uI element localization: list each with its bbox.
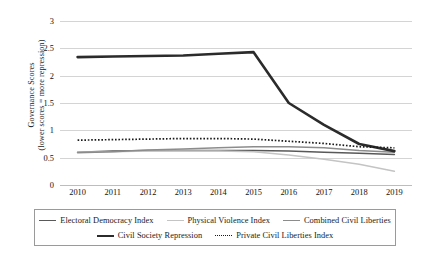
x-tick-label: 2015 bbox=[245, 188, 262, 197]
legend-row-2: Civil Society RepressionPrivate Civil Li… bbox=[35, 228, 395, 243]
x-tick-label: 2011 bbox=[105, 188, 121, 197]
series-line bbox=[78, 139, 395, 148]
x-axis-ticks: 2010201120122013201420152016201720182019 bbox=[60, 188, 412, 202]
legend-item[interactable]: Combined Civil Liberties bbox=[283, 216, 391, 225]
legend-swatch-icon bbox=[39, 220, 56, 221]
x-tick-label: 2013 bbox=[175, 188, 192, 197]
y-tick-label: 2 bbox=[14, 71, 54, 80]
legend-row-1: Electoral Democracy IndexPhysical Violen… bbox=[35, 213, 395, 228]
series-line bbox=[78, 52, 395, 151]
x-tick-label: 2017 bbox=[316, 188, 333, 197]
legend-label: Combined Civil Liberties bbox=[304, 216, 391, 225]
y-tick-label: 0.5 bbox=[14, 153, 54, 162]
legend-label: Physical Violence Index bbox=[188, 216, 270, 225]
series-lines bbox=[60, 21, 412, 185]
x-tick-label: 2014 bbox=[210, 188, 227, 197]
y-axis-ticks: 00.511.522.53 bbox=[0, 21, 54, 185]
y-tick-label: 2.5 bbox=[14, 44, 54, 53]
y-tick-label: 1 bbox=[14, 126, 54, 135]
y-tick-label: 1.5 bbox=[14, 99, 54, 108]
legend-label: Electoral Democracy Index bbox=[60, 216, 153, 225]
legend-label: Private Civil Liberties Index bbox=[236, 231, 333, 240]
legend-swatch-icon bbox=[283, 220, 300, 221]
chart-legend: Electoral Democracy IndexPhysical Violen… bbox=[34, 209, 396, 246]
legend-label: Civil Society Repression bbox=[118, 231, 202, 240]
gridline-0 bbox=[60, 185, 412, 186]
x-tick-label: 2018 bbox=[351, 188, 368, 197]
x-tick-label: 2012 bbox=[140, 188, 157, 197]
y-tick-label: 3 bbox=[14, 17, 54, 26]
legend-item[interactable]: Physical Violence Index bbox=[167, 216, 270, 225]
legend-swatch-icon bbox=[215, 235, 232, 236]
x-tick-label: 2016 bbox=[280, 188, 297, 197]
x-tick-label: 2019 bbox=[386, 188, 403, 197]
y-tick-label: 0 bbox=[14, 181, 54, 190]
series-line bbox=[78, 151, 395, 171]
legend-item[interactable]: Private Civil Liberties Index bbox=[215, 231, 333, 240]
legend-item[interactable]: Electoral Democracy Index bbox=[39, 216, 153, 225]
legend-swatch-icon bbox=[97, 235, 114, 237]
legend-swatch-icon bbox=[167, 220, 184, 221]
x-tick-label: 2010 bbox=[69, 188, 86, 197]
legend-item[interactable]: Civil Society Repression bbox=[97, 231, 202, 240]
line-chart: Governance Scores (lower scores = more r… bbox=[0, 0, 431, 255]
